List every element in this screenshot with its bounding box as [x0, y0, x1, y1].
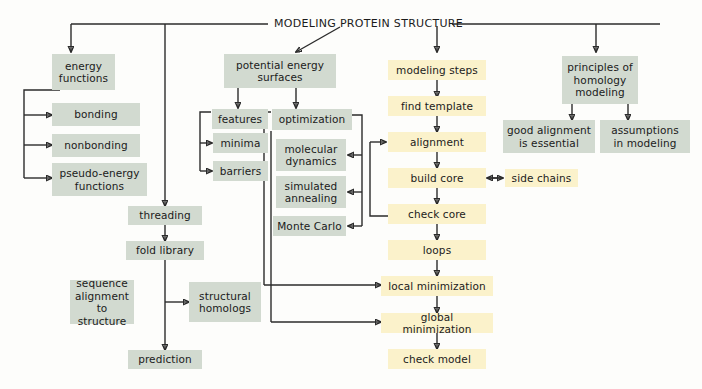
node-barriers[interactable]: barriers	[213, 161, 268, 181]
node-global-minimization[interactable]: global minimization	[381, 313, 493, 333]
edge-optimization-bracket	[348, 115, 362, 226]
node-good-alignment-is-essential[interactable]: good alignment is essential	[503, 120, 595, 153]
node-local-minimization[interactable]: local minimization	[381, 276, 493, 296]
edge-pes-split	[238, 88, 296, 108]
edge-check-core-feedback	[370, 142, 388, 216]
diagram-title: MODELING PROTEIN STRUCTURE	[274, 17, 463, 30]
node-alignment[interactable]: alignment	[388, 132, 486, 152]
node-molecular-dynamics[interactable]: molecular dynamics	[276, 139, 346, 171]
node-minima[interactable]: minima	[213, 133, 268, 153]
node-energy-functions[interactable]: energy functions	[52, 54, 115, 90]
node-assumptions-in-modeling[interactable]: assumptions in modeling	[600, 120, 690, 153]
node-monte-carlo[interactable]: Monte Carlo	[273, 216, 346, 236]
node-check-core[interactable]: check core	[388, 204, 486, 224]
node-features[interactable]: features	[212, 109, 268, 129]
diagram-canvas: MODELING PROTEIN STRUCTURE energy functi…	[0, 0, 702, 389]
node-side-chains[interactable]: side chains	[505, 169, 578, 187]
node-loops[interactable]: loops	[388, 240, 486, 260]
node-bonding[interactable]: bonding	[52, 103, 140, 126]
node-check-model[interactable]: check model	[388, 349, 486, 369]
edge-features-bracket	[200, 112, 212, 171]
node-modeling-steps[interactable]: modeling steps	[388, 60, 486, 80]
node-prediction[interactable]: prediction	[128, 350, 202, 369]
edge-principles-split	[572, 104, 628, 120]
node-threading[interactable]: threading	[128, 206, 202, 225]
node-pseudo-energy-functions[interactable]: pseudo-energy functions	[52, 163, 147, 196]
node-principles-of-homology-modeling[interactable]: principles of homology modeling	[562, 56, 638, 104]
node-optimization[interactable]: optimization	[272, 109, 352, 130]
node-fold-library[interactable]: fold library	[126, 241, 204, 260]
node-structural-homologs[interactable]: structural homologs	[189, 282, 261, 322]
node-build-core[interactable]: build core	[388, 168, 486, 188]
node-nonbonding[interactable]: nonbonding	[52, 134, 140, 157]
node-simulated-annealing[interactable]: simulated annealing	[276, 176, 346, 208]
node-sequence-alignment-to-structure[interactable]: sequence alignment to structure	[70, 280, 134, 324]
node-potential-energy-surfaces[interactable]: potential energy surfaces	[224, 54, 336, 88]
node-find-template[interactable]: find template	[388, 96, 486, 116]
